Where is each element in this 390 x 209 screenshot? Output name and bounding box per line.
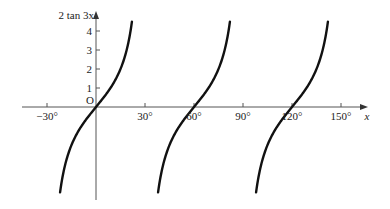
x-tick-label: 120° xyxy=(282,110,303,122)
y-axis-label: 2 tan 3x xyxy=(59,9,95,21)
x-tick-label: 60° xyxy=(186,110,201,122)
x-tick-label: 30° xyxy=(137,110,152,122)
labels: −30°30°60°90°120°150°1234O2 tan 3xx xyxy=(36,9,369,122)
y-tick-label: 2 xyxy=(87,63,93,75)
x-tick-label: −30° xyxy=(36,110,58,122)
y-tick-label: 4 xyxy=(87,25,93,37)
origin-label: O xyxy=(86,94,94,106)
tan-graph: −30°30°60°90°120°150°1234O2 tan 3xx xyxy=(0,0,390,209)
y-tick-label: 1 xyxy=(87,82,93,94)
x-tick-label: 90° xyxy=(235,110,250,122)
x-axis-label: x xyxy=(364,110,370,122)
y-tick-label: 3 xyxy=(87,44,93,56)
x-tick-label: 150° xyxy=(331,110,352,122)
chart-canvas: −30°30°60°90°120°150°1234O2 tan 3xx xyxy=(0,0,390,209)
